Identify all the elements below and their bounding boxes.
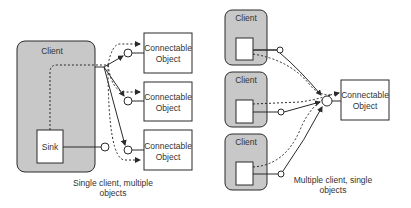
connectable-object-label: Connectable (144, 92, 192, 102)
connectable-object-box (341, 80, 389, 120)
object-interface-icon (124, 146, 132, 154)
object-interface-icon (322, 96, 332, 106)
diagram-canvas: Client Sink Connectable Object Connectab… (0, 0, 411, 208)
connectable-object-label: Object (156, 54, 181, 64)
left-caption: objects (100, 188, 127, 198)
connectable-object-label: Connectable (144, 141, 192, 151)
client-label: Client (41, 46, 63, 56)
callback-arrow-2 (108, 65, 140, 92)
call-arrow-1 (280, 53, 321, 95)
call-arrow-2 (104, 67, 124, 96)
connectable-object-label: Connectable (144, 43, 192, 53)
right-caption: objects (320, 185, 347, 195)
call-arrow-2 (284, 102, 320, 112)
connectable-object-label: Object (156, 152, 181, 162)
call-arrow-3 (104, 67, 125, 145)
right-diagram: Client Client Client Connectable (225, 10, 389, 195)
connectable-object-label: Connectable (341, 90, 389, 100)
sink-interface-icon (278, 109, 284, 115)
call-arrow-1 (104, 56, 123, 67)
object-interface-icon (124, 49, 132, 57)
connectable-object-label: Object (353, 101, 378, 111)
object-interface-icon (124, 97, 132, 105)
callback-arrow (330, 93, 339, 95)
client-label: Client (235, 13, 257, 23)
left-diagram: Client Sink Connectable Object Connectab… (17, 33, 192, 198)
right-caption: Multiple client, single (294, 175, 373, 185)
client-label: Client (235, 75, 257, 85)
connectable-object-label: Object (156, 103, 181, 113)
sink-interface-icon (278, 171, 284, 177)
sink-box (236, 38, 253, 60)
sink-box (236, 162, 253, 185)
sink-interface-icon (277, 47, 283, 53)
call-arrow-3 (283, 107, 322, 171)
client-label: Client (235, 137, 257, 147)
sink-label: Sink (42, 142, 59, 152)
left-caption: Single client, multiple (73, 178, 153, 188)
connectable-object-box (144, 33, 192, 73)
sink-interface-icon (101, 143, 109, 151)
sink-box (236, 100, 253, 123)
